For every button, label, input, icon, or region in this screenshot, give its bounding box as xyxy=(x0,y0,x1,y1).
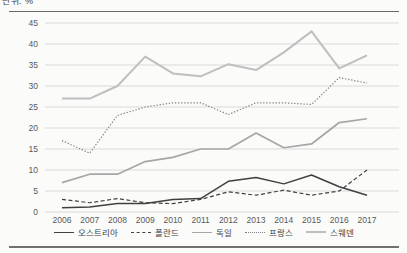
y-axis-tick-label: 45 xyxy=(12,18,38,28)
legend-line-sample-austria xyxy=(54,232,74,233)
y-axis-tick-label: 10 xyxy=(12,165,38,175)
legend-label: 폴란드 xyxy=(155,226,179,238)
bottom-horizontal-rule xyxy=(9,246,399,248)
x-axis-tick-label: 2011 xyxy=(187,215,215,225)
y-axis-tick-label: 40 xyxy=(12,39,38,49)
x-axis-tick-label: 2010 xyxy=(159,215,187,225)
legend-label: 오스트리아 xyxy=(78,226,118,238)
y-axis-tick-label: 15 xyxy=(12,144,38,154)
x-axis-tick-label: 2009 xyxy=(131,215,159,225)
y-axis-tick-label: 25 xyxy=(12,102,38,112)
legend-item-sweden: 스웨덴 xyxy=(306,226,354,238)
chart-legend: 오스트리아폴란드독일프랑스스웨덴 xyxy=(0,226,407,238)
legend-line-sample-france xyxy=(245,232,265,233)
x-axis-tick-label: 2017 xyxy=(353,215,381,225)
x-axis-tick-label: 2006 xyxy=(48,215,76,225)
x-axis-tick-label: 2016 xyxy=(325,215,353,225)
line-chart: 051015202530354045 200620072008200920102… xyxy=(0,0,407,253)
document-page: 단위: % 051015202530354045 200620072008200… xyxy=(0,0,407,253)
x-axis-tick-label: 2012 xyxy=(214,215,242,225)
x-axis-tick-label: 2013 xyxy=(242,215,270,225)
legend-item-poland: 폴란드 xyxy=(131,226,179,238)
legend-line-sample-poland xyxy=(131,232,151,233)
legend-label: 프랑스 xyxy=(269,226,293,238)
x-axis-tick-label: 2007 xyxy=(76,215,104,225)
y-axis-tick-label: 5 xyxy=(12,186,38,196)
y-axis-tick-label: 0 xyxy=(12,207,38,217)
legend-label: 스웨덴 xyxy=(330,226,354,238)
legend-item-germany: 독일 xyxy=(192,226,232,238)
x-axis-tick-label: 2015 xyxy=(298,215,326,225)
legend-item-france: 프랑스 xyxy=(245,226,293,238)
y-axis-tick-label: 30 xyxy=(12,81,38,91)
series-line-france xyxy=(62,78,367,154)
legend-line-sample-sweden xyxy=(306,231,326,233)
legend-line-sample-germany xyxy=(192,232,212,233)
x-axis-tick-label: 2008 xyxy=(103,215,131,225)
y-axis-tick-label: 35 xyxy=(12,60,38,70)
legend-label: 독일 xyxy=(216,226,232,238)
legend-item-austria: 오스트리아 xyxy=(54,226,118,238)
x-axis-tick-label: 2014 xyxy=(270,215,298,225)
y-axis-tick-label: 20 xyxy=(12,123,38,133)
